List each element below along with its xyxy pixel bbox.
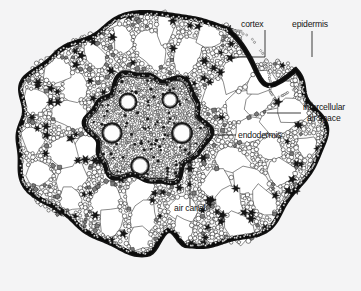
stele-cell [140,128,143,131]
parenchyma-cell [212,226,215,229]
epidermis-cell [172,16,174,18]
parenchyma-cell [48,192,52,196]
epidermis-cell [55,205,57,207]
parenchyma-cell [193,183,196,186]
stele-cell [159,98,161,100]
parenchyma-cell [302,166,306,170]
parenchyma-cell [106,236,109,239]
stele-cell [166,152,169,155]
stele-cell [137,125,139,127]
stele-dark-cell [140,142,143,145]
endodermis-cell [149,75,151,77]
epidermis-cell [168,227,170,229]
stele-cell [160,103,162,105]
parenchyma-cell [87,94,91,98]
endodermis-cell [130,173,132,175]
endodermis-cell [101,99,103,101]
epidermis-cell [322,123,324,125]
endodermis-cell [122,175,124,177]
pigmented-cell [96,81,101,86]
endodermis-cell [124,175,126,177]
parenchyma-cell [85,65,88,68]
stele-cell [140,97,143,100]
parenchyma-cell [207,50,211,54]
parenchyma-cell [100,69,104,73]
stele-cell [109,100,112,103]
parenchyma-cell [166,197,170,201]
stele-cell [140,103,143,106]
epidermis-cell [40,66,42,68]
parenchyma-cell [205,150,209,154]
parenchyma-cell [162,217,166,221]
stele-cell [181,119,184,122]
endodermis-cell [130,73,132,75]
stele-cell [133,123,136,126]
stele-cell [187,94,190,97]
stele-cell [96,128,99,131]
parenchyma-cell [154,17,158,21]
parenchyma-cell [171,35,175,39]
endodermis-cell [104,97,106,99]
parenchyma-cell [276,201,280,205]
parenchyma-cell [57,190,61,194]
stele-cell [138,89,141,92]
endodermis-cell [184,81,186,83]
parenchyma-cell [219,231,224,236]
epidermis-cell [21,125,23,127]
parenchyma-cell [52,96,56,100]
epidermis-cell [26,185,28,187]
stele-dark-cell [115,143,118,146]
epidermis-cell [24,78,26,80]
stele-cell [191,123,193,125]
parenchyma-cell [119,209,122,212]
stele-cell [128,167,130,169]
stele-cell [152,145,155,148]
stele-cell [157,111,159,113]
xylem-vessel [104,125,120,141]
pigmented-cell [48,185,51,188]
stele-cell [134,84,136,86]
parenchyma-cell [49,140,52,143]
parenchyma-cell [88,86,92,90]
parenchyma-cell [34,61,38,65]
stele-dark-cell [174,171,177,174]
label-intercellular-air-space-2: air space [307,113,341,123]
stele-dark-cell [158,145,161,148]
endodermis-cell [143,75,145,77]
stele-cell [94,117,97,120]
endodermis-cell [207,136,209,138]
epidermis-cell [212,25,214,27]
stele-cell [198,123,201,126]
stele-cell [150,112,153,115]
parenchyma-cell [298,97,301,100]
epidermis-cell [150,13,152,15]
stele-cell [128,137,131,140]
epidermis-cell [247,234,249,236]
stele-cell [115,108,118,111]
stele-cell [149,83,152,86]
parenchyma-cell [141,23,144,26]
endodermis-cell [95,106,97,108]
stele-cell [119,144,122,147]
parenchyma-cell [196,216,201,221]
stele-cell [162,122,164,124]
endodermis-cell [127,74,129,76]
stele-cell [160,155,162,157]
stele-cell [184,117,187,120]
stele-dark-cell [150,143,153,146]
parenchyma-cell [52,133,55,136]
stele-cell [149,100,152,103]
stele-cell [161,164,164,167]
cross-section-figure: cortexepidermisintercellularair spaceend… [0,0,361,291]
pigmented-cell [168,71,172,75]
parenchyma-cell [243,197,246,200]
parenchyma-cell [128,213,132,217]
parenchyma-cell [194,177,197,180]
parenchyma-cell [215,53,219,57]
stele-dark-cell [110,152,113,155]
stele-cell [154,120,157,123]
stele-cell [118,172,121,175]
label-endodermis: endodermis [238,130,281,140]
endodermis-cell [149,180,151,182]
parenchyma-cell [165,205,169,209]
